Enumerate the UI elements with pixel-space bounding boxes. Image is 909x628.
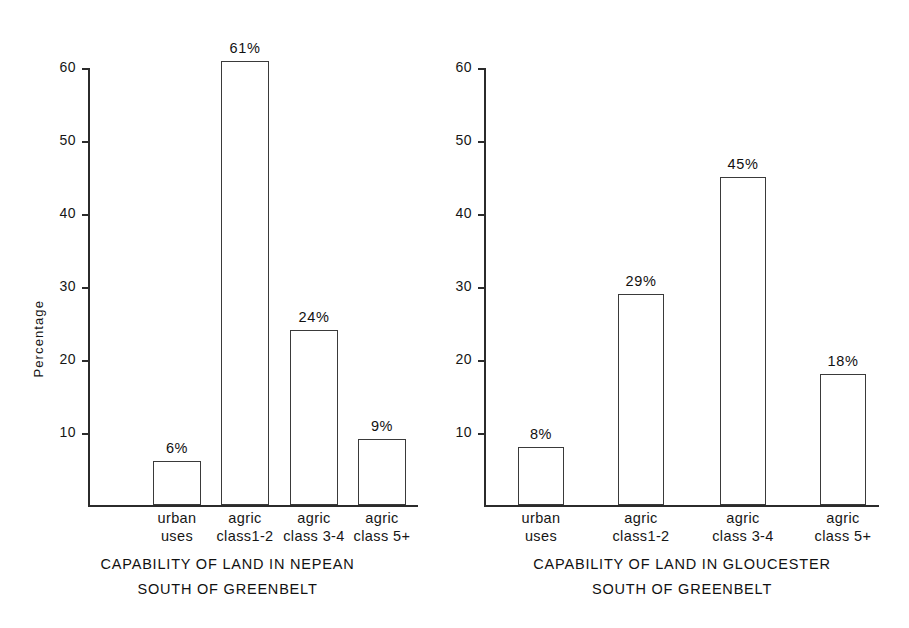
chart-title-line1: CAPABILITY OF LAND IN NEPEAN [0,556,455,572]
y-tick-label-40: 40 [44,205,76,221]
x-category-agric-class3-4-line2: class 3-4 [698,527,788,545]
x-category-agric-class5plus-line1: agric [798,509,888,527]
bar-value-urban-uses: 6% [147,440,207,456]
bar-value-agric-class3-4: 45% [713,156,773,172]
x-category-urban-uses-line2: uses [496,527,586,545]
bar-agric-class5plus[interactable] [820,374,866,505]
y-tick-label-30: 30 [440,278,472,294]
x-category-agric-class5plus-line1: agric [337,509,427,527]
x-category-agric-class3-4-line1: agric [698,509,788,527]
y-tick-50 [478,141,485,143]
figure-canvas: Percentage 60 50 40 30 20 10 6% 61% 24% … [0,0,909,628]
y-tick-label-20: 20 [44,351,76,367]
x-category-agric-class1-2-line2: class1-2 [596,527,686,545]
x-category-agric-class5plus-line2: class 5+ [337,527,427,545]
y-tick-20 [478,360,485,362]
bar-urban-uses[interactable] [518,447,564,505]
bar-value-agric-class3-4: 24% [284,309,344,325]
x-category-agric-class5plus-line2: class 5+ [798,527,888,545]
bar-value-agric-class1-2: 61% [215,40,275,56]
chart-panel-nepean: Percentage 60 50 40 30 20 10 6% 61% 24% … [0,0,455,628]
y-tick-label-60: 60 [440,59,472,75]
y-tick-40 [82,214,89,216]
bar-agric-class1-2[interactable] [221,61,269,505]
y-tick-30 [478,287,485,289]
y-tick-label-50: 50 [44,132,76,148]
x-category-agric-class1-2-line1: agric [596,509,686,527]
y-tick-60 [478,68,485,70]
y-tick-label-50: 50 [440,132,472,148]
y-tick-10 [478,433,485,435]
bar-agric-class3-4[interactable] [290,330,338,505]
bar-agric-class5plus[interactable] [358,439,406,505]
chart-title-line2: SOUTH OF GREENBELT [455,581,909,597]
y-tick-20 [82,360,89,362]
y-tick-10 [82,433,89,435]
bar-value-urban-uses: 8% [511,426,571,442]
x-category-agric-class3-4: agric class 3-4 [698,509,788,545]
chart-title-line1: CAPABILITY OF LAND IN GLOUCESTER [455,556,909,572]
y-tick-30 [82,287,89,289]
bar-value-agric-class5plus: 18% [813,353,873,369]
x-category-agric-class5plus: agric class 5+ [798,509,888,545]
x-axis-line [88,505,418,507]
chart-title-line2: SOUTH OF GREENBELT [0,581,455,597]
x-category-agric-class1-2: agric class1-2 [596,509,686,545]
x-category-urban-uses-line1: urban [496,509,586,527]
bar-value-agric-class1-2: 29% [611,273,671,289]
y-tick-50 [82,141,89,143]
y-tick-label-30: 30 [44,278,76,294]
y-tick-label-40: 40 [440,205,472,221]
y-tick-label-10: 10 [44,424,76,440]
y-tick-label-20: 20 [440,351,472,367]
bar-agric-class3-4[interactable] [720,177,766,505]
x-category-agric-class5plus: agric class 5+ [337,509,427,545]
x-category-urban-uses: urban uses [496,509,586,545]
x-axis-line [484,505,879,507]
chart-panel-gloucester: 60 50 40 30 20 10 8% 29% 45% 18% urban u… [455,0,909,628]
y-tick-label-10: 10 [440,424,472,440]
y-tick-40 [478,214,485,216]
bar-value-agric-class5plus: 9% [352,418,412,434]
bar-urban-uses[interactable] [153,461,201,505]
y-tick-label-60: 60 [44,59,76,75]
bar-agric-class1-2[interactable] [618,294,664,505]
y-tick-60 [82,68,89,70]
